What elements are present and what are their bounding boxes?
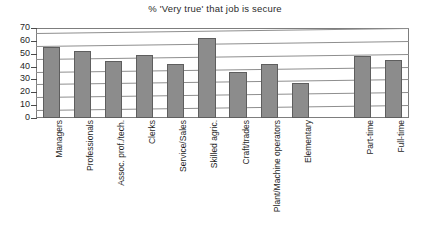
y-tick-label: 30 bbox=[4, 74, 30, 83]
bar bbox=[136, 55, 153, 118]
bar bbox=[261, 64, 278, 118]
x-axis-label: Plant/Machine operators bbox=[273, 120, 282, 212]
bar bbox=[292, 83, 309, 118]
x-axis-label-text: Craft/trades bbox=[242, 120, 251, 164]
bar-chart-figure: % 'Very true' that job is secure 7060504… bbox=[0, 0, 430, 245]
x-axis-label: Clerks bbox=[148, 120, 157, 144]
bar bbox=[198, 38, 215, 118]
x-axis-label-text: Clerks bbox=[148, 120, 157, 144]
x-axis-label: Service/Sales bbox=[179, 120, 188, 172]
x-axis-label-text: Managers bbox=[55, 120, 64, 158]
x-axis-label: Full-time bbox=[397, 120, 406, 153]
x-axis-label: Skilled agric. bbox=[210, 120, 219, 168]
bars-layer bbox=[36, 28, 409, 118]
bar bbox=[354, 56, 371, 118]
y-tick-mark bbox=[31, 105, 37, 106]
bar bbox=[167, 64, 184, 118]
y-tick-label: 20 bbox=[4, 87, 30, 96]
x-axis-label: Managers bbox=[55, 120, 64, 158]
x-axis-label-text: Elementary bbox=[304, 120, 313, 163]
y-axis-tick-labels: 706050403020100 bbox=[0, 0, 30, 245]
plot-area bbox=[36, 28, 409, 118]
chart-title: % 'Very true' that job is secure bbox=[0, 3, 430, 14]
x-axis-label: Elementary bbox=[304, 120, 313, 163]
y-tick-mark bbox=[31, 41, 37, 42]
y-tick-label: 40 bbox=[4, 62, 30, 71]
y-tick-mark bbox=[31, 28, 37, 29]
x-axis-label: Professionals bbox=[86, 120, 95, 171]
y-tick-mark bbox=[31, 92, 37, 93]
x-axis-label-text: Full-time bbox=[397, 120, 406, 153]
y-tick-label: 0 bbox=[4, 113, 30, 122]
bar bbox=[105, 61, 122, 118]
x-axis-label: Craft/trades bbox=[242, 120, 251, 164]
bar bbox=[229, 72, 246, 118]
x-axis-label-text: Part-time bbox=[366, 120, 375, 154]
y-tick-mark bbox=[31, 79, 37, 80]
y-tick-label: 50 bbox=[4, 49, 30, 58]
x-axis-label: Part-time bbox=[366, 120, 375, 154]
bar bbox=[74, 51, 91, 118]
y-tick-label: 70 bbox=[4, 23, 30, 32]
x-axis-label: Assoc. prof./tech. bbox=[117, 120, 126, 186]
y-tick-label: 10 bbox=[4, 100, 30, 109]
y-tick-mark bbox=[31, 67, 37, 68]
y-tick-mark bbox=[31, 54, 37, 55]
bar bbox=[43, 47, 60, 118]
x-axis-category-labels: ManagersProfessionalsAssoc. prof./tech.C… bbox=[36, 120, 409, 244]
x-axis-label-text: Professionals bbox=[86, 120, 95, 171]
x-axis-label-text: Plant/Machine operators bbox=[273, 120, 282, 212]
x-axis-label-text: Assoc. prof./tech. bbox=[117, 120, 126, 186]
y-tick-mark bbox=[31, 118, 37, 119]
y-tick-label: 60 bbox=[4, 36, 30, 45]
x-axis-label-text: Service/Sales bbox=[179, 120, 188, 172]
bar bbox=[385, 60, 402, 118]
x-axis-label-text: Skilled agric. bbox=[210, 120, 219, 168]
